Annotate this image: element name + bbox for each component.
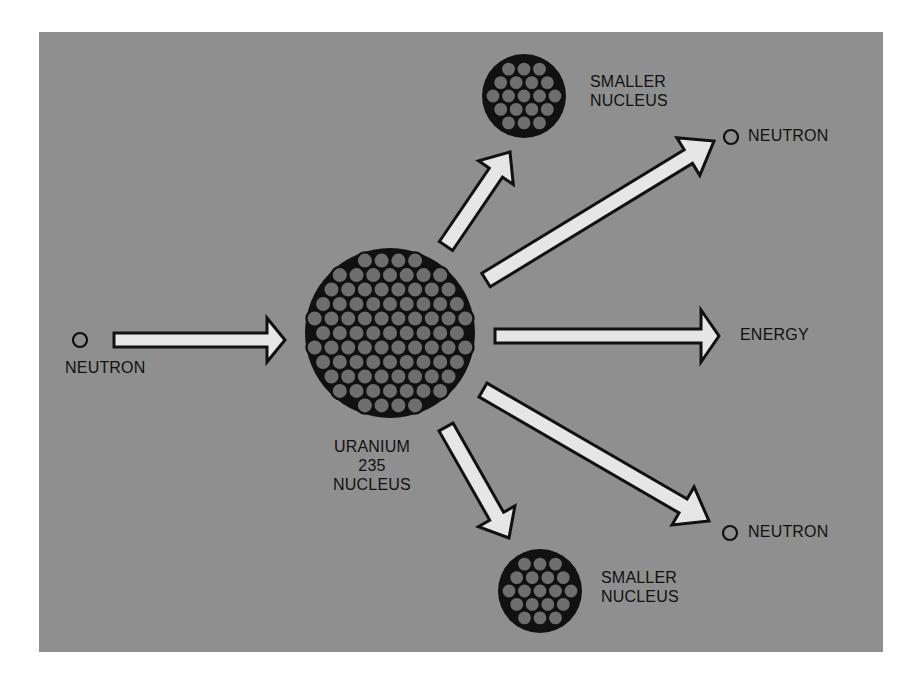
- uranium-235-nucleus: [305, 248, 475, 418]
- label-line: NEUTRON: [748, 522, 858, 541]
- nucleon-icon: [407, 397, 423, 413]
- label-line: URANIUM: [307, 437, 437, 456]
- nucleon-icon: [516, 115, 531, 130]
- label-line: 235: [307, 456, 437, 475]
- label-line: NUCLEUS: [307, 475, 437, 494]
- nucleon-icon: [517, 610, 532, 625]
- nucleon-icon: [501, 115, 516, 130]
- smaller-nucleus-top: [482, 54, 566, 138]
- label-incoming-neutron: NEUTRON: [65, 358, 175, 377]
- label-line: NUCLEUS: [601, 587, 711, 606]
- nucleon-icon: [357, 397, 373, 413]
- label-neutron-top-right: NEUTRON: [748, 126, 858, 145]
- label-smaller-nucleus-bottom: SMALLER NUCLEUS: [601, 568, 711, 606]
- nucleon-icon: [532, 610, 547, 625]
- smaller-nucleus-bottom: [498, 549, 582, 633]
- label-line: ENERGY: [740, 325, 840, 344]
- label-energy: ENERGY: [740, 325, 840, 344]
- nucleon-icon: [332, 383, 348, 399]
- label-smaller-nucleus-top: SMALLER NUCLEUS: [590, 72, 700, 110]
- label-line: SMALLER: [590, 72, 700, 91]
- label-line: NEUTRON: [65, 358, 175, 377]
- nucleon-icon: [390, 397, 406, 413]
- label-line: NEUTRON: [748, 126, 858, 145]
- nucleon-icon: [548, 610, 563, 625]
- nucleon-icon: [532, 115, 547, 130]
- nucleon-icon: [373, 397, 389, 413]
- label-neutron-bottom-right: NEUTRON: [748, 522, 858, 541]
- label-line: SMALLER: [601, 568, 711, 587]
- label-line: NUCLEUS: [590, 91, 700, 110]
- nucleon-icon: [432, 383, 448, 399]
- label-uranium-235-nucleus: URANIUM 235 NUCLEUS: [307, 437, 437, 494]
